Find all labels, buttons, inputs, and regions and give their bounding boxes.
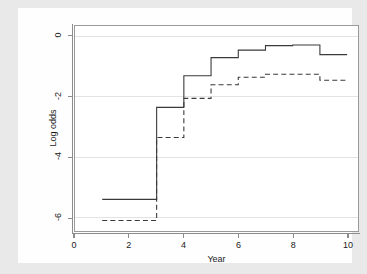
axis-lines [18,8,352,263]
chart-panel: 0-2-4-6 0246810 Log odds Year [18,8,352,263]
chart-figure: 0-2-4-6 0246810 Log odds Year [0,0,367,274]
